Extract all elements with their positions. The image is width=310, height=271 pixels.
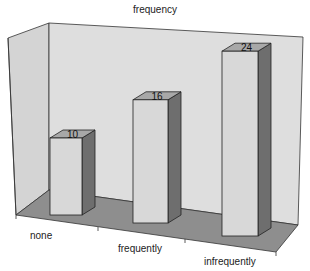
x-tick-label: none — [30, 230, 52, 241]
x-tick-label: infrequently — [204, 256, 256, 267]
data-label: 10 — [67, 129, 79, 140]
bar-none: 10 — [50, 129, 95, 215]
side-wall — [8, 23, 49, 215]
data-label: 24 — [241, 42, 253, 53]
data-label: 16 — [151, 91, 163, 102]
bar-frequently: 16 — [133, 91, 181, 223]
x-tick-label: frequently — [118, 243, 162, 254]
bar-infrequently: 24 — [222, 42, 271, 236]
bar-chart-3d: frequency 101624 nonefrequentlyinfrequen… — [0, 0, 310, 271]
